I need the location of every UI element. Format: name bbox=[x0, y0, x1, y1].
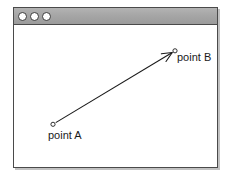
window-control-minimize-icon[interactable] bbox=[30, 12, 39, 21]
arrow-diagram bbox=[14, 25, 217, 167]
window-control-close-icon[interactable] bbox=[18, 12, 27, 21]
window-canvas[interactable]: point A point B bbox=[14, 25, 217, 167]
screenshot-scene: point A point B bbox=[0, 0, 235, 181]
window-control-maximize-icon[interactable] bbox=[42, 12, 51, 21]
point-b-label: point B bbox=[177, 52, 211, 63]
app-window: point A point B bbox=[13, 7, 218, 168]
window-titlebar[interactable] bbox=[14, 8, 217, 25]
point-a-marker-icon bbox=[51, 122, 55, 126]
point-a-label: point A bbox=[48, 130, 82, 141]
arrow-line bbox=[56, 52, 173, 122]
